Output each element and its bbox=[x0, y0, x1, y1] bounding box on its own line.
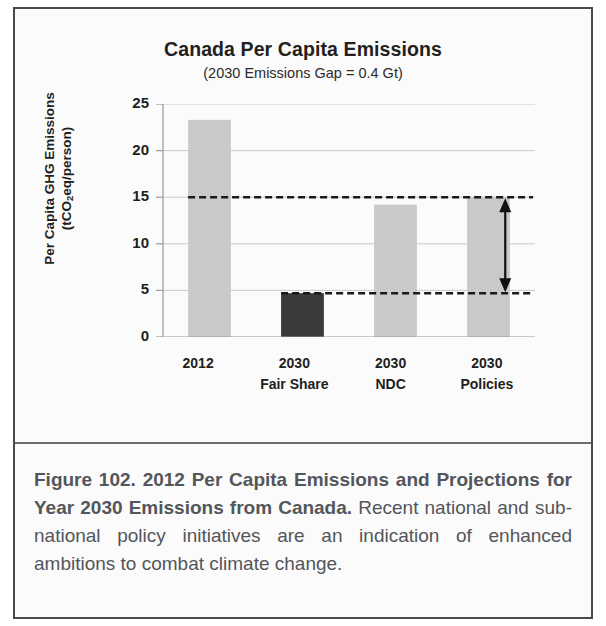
y-axis-tick-label: 20 bbox=[115, 141, 149, 158]
x-axis-tick-label-line: Policies bbox=[439, 374, 535, 395]
y-axis-tick-labels: 2520151050 bbox=[111, 104, 149, 337]
plot-area bbox=[150, 104, 535, 337]
x-axis-tick-label-line: Fair Share bbox=[246, 374, 342, 395]
y-axis-tick-label: 15 bbox=[115, 187, 149, 204]
x-axis-tick-labels: 20122030Fair Share2030NDC2030Policies bbox=[150, 353, 535, 415]
y-axis-tick-label: 5 bbox=[115, 280, 149, 297]
caption-panel: Figure 102. 2012 Per Capita Emissions an… bbox=[15, 444, 591, 619]
x-axis-tick-label-line: 2030 bbox=[439, 353, 535, 374]
bar bbox=[467, 197, 510, 337]
axis-ticks bbox=[156, 104, 163, 337]
bar bbox=[188, 120, 231, 337]
x-axis-tick-label-line: 2030 bbox=[246, 353, 342, 374]
y-axis-tick-label: 25 bbox=[115, 94, 149, 111]
y-axis-title: Per Capita GHG Emissions (tCO2eq/person) bbox=[41, 79, 76, 279]
chart-subtitle: (2030 Emissions Gap = 0.4 Gt) bbox=[15, 65, 591, 81]
chart-title: Canada Per Capita Emissions bbox=[15, 38, 591, 61]
y-axis-title-line2: (tCO2eq/person) bbox=[58, 79, 76, 279]
y-axis-unit-subscript: 2 bbox=[64, 196, 75, 201]
y-axis-tick-label: 0 bbox=[115, 327, 149, 344]
chart-panel: Canada Per Capita Emissions (2030 Emissi… bbox=[15, 9, 591, 442]
x-axis-tick-label: 2030NDC bbox=[343, 353, 439, 415]
y-axis-unit-pre: (tCO bbox=[59, 201, 74, 230]
x-axis-tick-label: 2030Fair Share bbox=[246, 353, 342, 415]
y-axis-tick-label: 10 bbox=[115, 234, 149, 251]
x-axis-tick-label-line bbox=[150, 374, 246, 376]
bar-series bbox=[188, 120, 510, 337]
y-axis-title-line1: Per Capita GHG Emissions bbox=[41, 79, 58, 279]
x-axis-tick-label-line: NDC bbox=[343, 374, 439, 395]
bar bbox=[281, 293, 324, 337]
x-axis-tick-label-line: 2030 bbox=[343, 353, 439, 374]
x-axis-tick-label: 2030Policies bbox=[439, 353, 535, 415]
chart-subtitle-text: (2030 Emissions Gap = 0.4 Gt) bbox=[203, 65, 402, 81]
chart-svg bbox=[150, 104, 535, 337]
bar bbox=[374, 205, 417, 337]
figure-caption-title: Figure 102. 2012 Per Capita Emissions an… bbox=[34, 466, 572, 578]
figure-container: Canada Per Capita Emissions (2030 Emissi… bbox=[13, 7, 593, 619]
x-axis-tick-label-line: 2012 bbox=[150, 353, 246, 374]
x-axis-tick-label: 2012 bbox=[150, 353, 246, 415]
y-axis-unit-post: eq/person) bbox=[59, 127, 74, 196]
